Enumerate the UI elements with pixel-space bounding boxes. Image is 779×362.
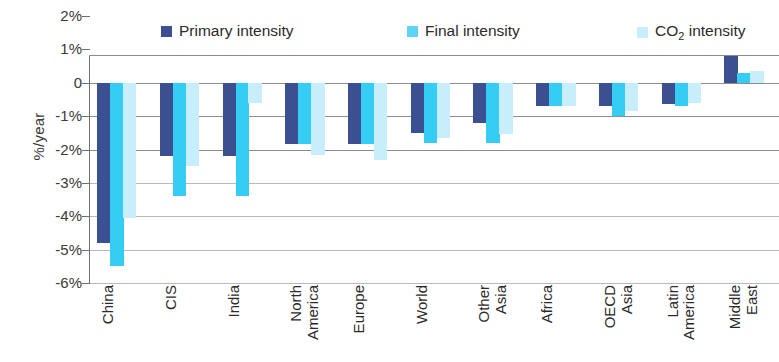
x-tick-label: OECDAsia — [602, 285, 636, 362]
y-tick-label: -4% — [36, 208, 82, 223]
legend-label: Primary intensity — [179, 22, 294, 40]
x-tick-label: World — [414, 285, 431, 362]
bar-co2 — [123, 83, 136, 218]
x-tick-label: MiddleEast — [727, 285, 761, 362]
bar-chart: %/year 2%1%0-1%-2%-3%-4%-5%-6% Primary i… — [0, 0, 779, 362]
bar-co2 — [248, 83, 261, 103]
bar-co2 — [750, 71, 763, 83]
bar-final — [298, 83, 311, 145]
bar-co2 — [437, 83, 450, 138]
x-tick-label: NorthAmerica — [288, 285, 322, 362]
gridline — [89, 283, 779, 284]
y-axis-tick — [82, 49, 90, 50]
bar-primary — [223, 83, 236, 156]
bar-final — [486, 83, 499, 143]
bar-co2 — [625, 83, 638, 111]
x-tick-label-line: Asia — [619, 285, 635, 314]
x-tick-label: Africa — [539, 285, 556, 362]
y-axis-tick — [82, 283, 90, 284]
legend-label: Final intensity — [425, 22, 520, 40]
x-tick-label-line: World — [414, 285, 430, 324]
y-tick-label: 1% — [36, 41, 82, 56]
bar-final — [110, 83, 123, 267]
x-tick-label-line: East — [744, 285, 760, 315]
bar-group — [285, 16, 324, 283]
y-tick-label: -1% — [36, 108, 82, 123]
x-tick-label-line: OECD — [602, 285, 618, 328]
y-axis-tick — [82, 183, 90, 184]
bar-final — [361, 83, 374, 145]
bar-co2 — [186, 83, 199, 166]
x-tick-label-line: Middle — [727, 285, 743, 329]
x-tick-label-line: Africa — [539, 285, 555, 323]
bar-co2 — [562, 83, 575, 106]
y-tick-label: -6% — [36, 275, 82, 290]
bar-final — [549, 83, 562, 106]
legend-item[interactable]: Final intensity — [407, 22, 520, 40]
x-tick-label-line: America — [681, 285, 697, 340]
bar-final — [675, 83, 688, 106]
legend-label: CO2 intensity — [655, 22, 746, 42]
bar-co2 — [688, 83, 701, 103]
x-tick-label: LatinAmerica — [665, 285, 699, 362]
x-tick-label: CIS — [163, 285, 180, 362]
bar-group — [662, 16, 701, 283]
y-axis-tick — [82, 116, 90, 117]
bar-final — [236, 83, 249, 196]
bar-primary — [536, 83, 549, 106]
legend-swatch-co2 — [637, 27, 648, 38]
legend-swatch-primary — [161, 26, 172, 37]
y-axis-tick — [82, 250, 90, 251]
chart-legend: Primary intensityFinal intensityCO2 inte… — [89, 16, 779, 56]
bars-layer — [89, 16, 779, 283]
bar-group — [473, 16, 512, 283]
y-axis-tick — [82, 150, 90, 151]
y-tick-label: -3% — [36, 175, 82, 190]
y-axis-tick — [82, 216, 90, 217]
x-tick-label-line: India — [226, 285, 242, 318]
legend-item[interactable]: CO2 intensity — [637, 22, 746, 42]
bar-primary — [411, 83, 424, 133]
y-tick-label: -2% — [36, 142, 82, 157]
bar-final — [424, 83, 437, 143]
bar-group — [599, 16, 638, 283]
x-tick-label-line: Asia — [493, 285, 509, 314]
bar-group — [97, 16, 136, 283]
x-tick-label: OtherAsia — [476, 285, 510, 362]
x-tick-label-line: North — [288, 285, 304, 322]
bar-group — [724, 16, 763, 283]
y-tick-label: 2% — [36, 8, 82, 23]
bar-primary — [599, 83, 612, 106]
bar-group — [411, 16, 450, 283]
y-tick-label: -5% — [36, 242, 82, 257]
x-tick-label: India — [226, 285, 243, 362]
bar-co2 — [311, 83, 324, 155]
bar-co2 — [499, 83, 512, 135]
legend-swatch-final — [407, 26, 418, 37]
y-axis-tick-labels: 2%1%0-1%-2%-3%-4%-5%-6% — [32, 0, 82, 362]
x-tick-label-line: Other — [476, 285, 492, 323]
y-axis-tick — [82, 83, 90, 84]
bar-primary — [348, 83, 361, 145]
bar-primary — [160, 83, 173, 156]
bar-primary — [662, 83, 675, 105]
bar-group — [160, 16, 199, 283]
bar-group — [348, 16, 387, 283]
bar-final — [737, 73, 750, 83]
x-tick-label: Europe — [351, 285, 368, 362]
y-tick-label: 0 — [36, 75, 82, 90]
x-tick-label-line: China — [100, 285, 116, 324]
x-tick-label-line: America — [305, 285, 321, 340]
x-tick-label-line: Latin — [665, 285, 681, 318]
plot-area — [89, 16, 779, 283]
bar-co2 — [374, 83, 387, 160]
x-tick-label-line: CIS — [163, 285, 179, 310]
bar-primary — [473, 83, 486, 123]
y-axis-tick — [82, 16, 90, 17]
x-tick-label: China — [100, 285, 117, 362]
bar-group — [223, 16, 262, 283]
legend-item[interactable]: Primary intensity — [161, 22, 294, 40]
bar-primary — [97, 83, 110, 243]
legend-label-subscript: 2 — [678, 30, 684, 42]
bar-final — [612, 83, 625, 116]
